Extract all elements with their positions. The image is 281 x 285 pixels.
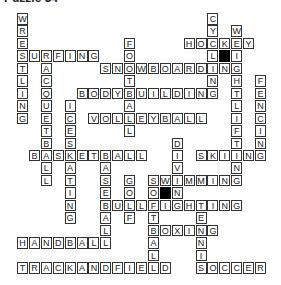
grid-cell: I	[148, 88, 159, 100]
grid-cell: B	[148, 225, 159, 237]
grid-cell: I	[255, 125, 266, 137]
grid-cell: O	[124, 50, 135, 62]
grid-cell: I	[160, 200, 171, 212]
grid-cell: C	[65, 113, 76, 125]
grid-cell: G	[231, 63, 242, 75]
grid-cell: E	[231, 38, 242, 50]
grid-cell: H	[231, 75, 242, 87]
grid-cell: O	[88, 88, 99, 100]
grid-cell: Y	[112, 88, 123, 100]
grid-cell: B	[29, 150, 40, 162]
grid-cell: I	[231, 150, 242, 162]
grid-cell: A	[148, 237, 159, 249]
grid-cell: A	[77, 262, 88, 274]
grid-cell: I	[124, 262, 135, 274]
grid-cell: R	[17, 25, 28, 37]
grid-cell: A	[41, 63, 52, 75]
grid-cell: T	[124, 75, 135, 87]
grid-cell: L	[184, 113, 195, 125]
grid-cell: T	[231, 88, 242, 100]
grid-cell: W	[231, 25, 242, 37]
grid-cell: S	[196, 150, 207, 162]
grid-cell: E	[243, 262, 254, 274]
black-square	[219, 50, 230, 62]
grid-cell: V	[172, 162, 183, 174]
grid-cell: C	[207, 38, 218, 50]
grid-cell: L	[231, 100, 242, 112]
grid-cell: D	[160, 262, 171, 274]
grid-cell: I	[219, 150, 230, 162]
grid-cell: A	[41, 150, 52, 162]
grid-cell: F	[255, 75, 266, 87]
grid-cell: F	[53, 50, 64, 62]
crossword-grid: WRESTLINGURFINGACQUETBALLFOOTBALLSNWBOAR…	[0, 0, 281, 285]
grid-cell: N	[17, 100, 28, 112]
grid-cell: G	[172, 200, 183, 212]
grid-cell: L	[196, 113, 207, 125]
grid-cell: G	[207, 88, 218, 100]
grid-cell: L	[148, 262, 159, 274]
grid-cell: E	[65, 125, 76, 137]
black-square	[160, 187, 171, 199]
grid-cell: V	[88, 113, 99, 125]
grid-cell: M	[184, 175, 195, 187]
grid-cell: D	[100, 262, 111, 274]
grid-cell: N	[207, 75, 218, 87]
grid-cell: E	[41, 113, 52, 125]
grid-cell: T	[65, 175, 76, 187]
grid-cell: I	[207, 175, 218, 187]
grid-cell: A	[112, 150, 123, 162]
grid-cell: H	[17, 237, 28, 249]
grid-cell: S	[65, 138, 76, 150]
grid-cell: Q	[41, 88, 52, 100]
grid-cell: B	[100, 200, 111, 212]
grid-cell: N	[255, 100, 266, 112]
grid-cell: L	[124, 200, 135, 212]
grid-cell: N	[255, 138, 266, 150]
grid-cell: N	[231, 162, 242, 174]
grid-cell: L	[88, 237, 99, 249]
grid-cell: L	[17, 75, 28, 87]
grid-cell: G	[124, 175, 135, 187]
grid-cell: R	[29, 262, 40, 274]
grid-cell: I	[65, 100, 76, 112]
grid-cell: F	[148, 200, 159, 212]
grid-cell: L	[207, 50, 218, 62]
grid-cell: N	[219, 200, 230, 212]
grid-cell: G	[231, 200, 242, 212]
grid-cell: B	[160, 113, 171, 125]
grid-cell: S	[148, 175, 159, 187]
grid-cell: D	[53, 237, 64, 249]
grid-cell: B	[148, 63, 159, 75]
grid-cell: N	[196, 237, 207, 249]
grid-cell: O	[124, 187, 135, 199]
grid-cell: C	[219, 262, 230, 274]
grid-cell: K	[65, 262, 76, 274]
grid-cell: N	[196, 88, 207, 100]
grid-cell: C	[255, 113, 266, 125]
grid-cell: W	[136, 63, 147, 75]
grid-cell: O	[148, 187, 159, 199]
grid-cell: I	[172, 150, 183, 162]
grid-cell: H	[184, 200, 195, 212]
grid-cell: O	[207, 262, 218, 274]
grid-cell: G	[65, 212, 76, 224]
grid-cell: I	[65, 50, 76, 62]
grid-cell: O	[160, 63, 171, 75]
grid-cell: T	[88, 150, 99, 162]
grid-cell: G	[17, 113, 28, 125]
grid-cell: N	[219, 63, 230, 75]
grid-cell: F	[231, 125, 242, 137]
grid-cell: N	[172, 187, 183, 199]
grid-cell: F	[124, 212, 135, 224]
grid-cell: O	[160, 225, 171, 237]
grid-cell: C	[207, 13, 218, 25]
grid-cell: G	[88, 50, 99, 62]
grid-cell: T	[41, 125, 52, 137]
grid-cell: I	[172, 175, 183, 187]
grid-cell: A	[41, 262, 52, 274]
grid-cell: N	[41, 237, 52, 249]
grid-cell: I	[231, 50, 242, 62]
grid-cell: R	[184, 63, 195, 75]
grid-cell: E	[17, 38, 28, 50]
